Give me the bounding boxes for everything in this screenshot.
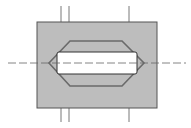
top-extension-lines xyxy=(61,6,129,22)
cross-section-diagram xyxy=(0,0,191,128)
bottom-extension-lines xyxy=(61,108,129,122)
